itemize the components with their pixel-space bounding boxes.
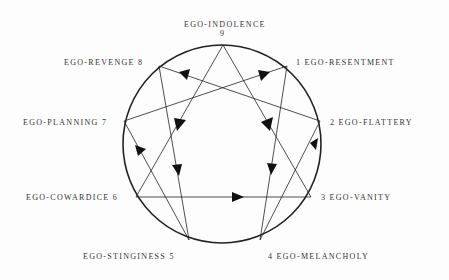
label-point-1: 1 EGO-RESENTMENT (296, 58, 395, 67)
label-point-6: EGO-COWARDICE 6 (26, 193, 118, 202)
arrow-icon (267, 163, 277, 175)
arrow-icon (172, 164, 182, 176)
label-point-3: 3 EGO-VANITY (321, 193, 391, 202)
number-point-9: 9 (220, 29, 224, 38)
enneagram-circle (123, 45, 321, 243)
label-point-5: EGO-STINGINESS 5 (83, 252, 175, 261)
label-point-9: EGO-INDOLENCE (184, 20, 266, 29)
label-point-4: 4 EGO-MELANCHOLY (268, 252, 369, 261)
label-point-2: 2 EGO-FLATTERY (330, 118, 413, 127)
arrow-icon (232, 192, 244, 202)
connection-lines (124, 45, 320, 240)
enneagram-diagram (0, 0, 449, 280)
label-point-8: EGO-REVENGE 8 (64, 58, 143, 67)
label-point-7: EGO-PLANNING 7 (23, 118, 107, 127)
arrow-icon (258, 70, 270, 81)
arrow-icon (174, 118, 186, 131)
arrow-icon (179, 69, 190, 80)
arrow-icon (310, 138, 318, 150)
arrow-icon (135, 145, 146, 156)
